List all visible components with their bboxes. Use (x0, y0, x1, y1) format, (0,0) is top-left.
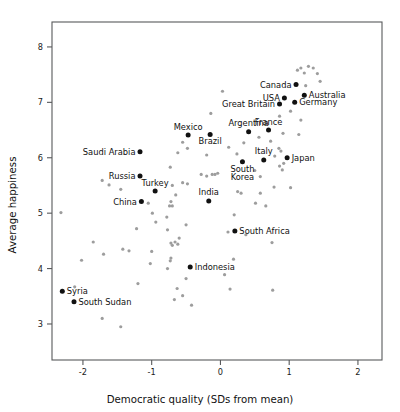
scatter-plot-figure: -2-1012 345678 CanadaAustraliaUSAGermany… (0, 0, 400, 412)
data-point (303, 71, 306, 74)
data-point (307, 65, 310, 68)
data-point (149, 262, 152, 265)
data-point-label: Japan (291, 153, 315, 163)
x-tick-label: -1 (148, 367, 156, 377)
data-point (259, 192, 262, 195)
data-point-label: Mexico (174, 122, 203, 132)
data-point (181, 294, 184, 297)
data-point (121, 248, 124, 251)
data-point-label: Turkey (141, 178, 169, 188)
data-point (101, 179, 104, 182)
y-axis-title: Average happiness (7, 157, 18, 254)
data-point (232, 258, 235, 261)
data-point (205, 153, 208, 156)
data-point-label: Canada (260, 80, 292, 90)
data-point-labeled (292, 100, 297, 105)
data-point (168, 204, 171, 207)
data-point (209, 112, 212, 115)
data-point (169, 259, 172, 262)
data-point (242, 141, 245, 144)
data-point-labeled (153, 189, 158, 194)
data-point-label: Great Britain (222, 99, 275, 109)
data-point (299, 66, 302, 69)
data-point (257, 136, 260, 139)
data-point (150, 250, 153, 253)
x-tick-label: 1 (287, 367, 292, 377)
data-point (282, 162, 285, 165)
data-point (59, 211, 62, 214)
data-point-label: South Sudan (79, 297, 132, 307)
data-point (184, 277, 187, 280)
data-point (166, 228, 169, 231)
data-point (226, 230, 229, 233)
data-point (254, 202, 257, 205)
data-point-labeled (139, 199, 144, 204)
data-point (135, 227, 138, 230)
y-tick-label: 7 (38, 97, 43, 107)
data-point-labeled (60, 289, 65, 294)
data-point (316, 72, 319, 75)
data-point (312, 66, 315, 69)
data-point (296, 69, 299, 72)
data-point (166, 267, 169, 270)
data-point (102, 253, 105, 256)
x-tick-label: 0 (218, 367, 223, 377)
data-point (269, 140, 272, 143)
data-point (186, 147, 189, 150)
data-point-label: Italy (255, 146, 273, 156)
data-point-labeled (294, 82, 299, 87)
data-point (119, 188, 122, 191)
data-point-labeled (246, 129, 251, 134)
data-point (270, 241, 273, 244)
data-point (259, 175, 262, 178)
data-point-labeled (206, 198, 211, 203)
data-point (107, 183, 110, 186)
data-point (147, 202, 150, 205)
data-point-label: Indonesia (195, 262, 235, 272)
data-point-labeled (282, 95, 287, 100)
data-point (304, 84, 307, 87)
y-tick-label: 3 (38, 319, 43, 329)
figure-background (0, 0, 400, 412)
data-point (289, 110, 292, 113)
data-point (169, 200, 172, 203)
data-point-label: Korea (231, 172, 255, 182)
data-point (221, 90, 224, 93)
data-point (186, 182, 189, 185)
data-point (169, 256, 172, 259)
data-point (136, 282, 139, 285)
data-point (239, 192, 242, 195)
data-point (181, 141, 184, 144)
data-point (278, 164, 281, 167)
x-axis-title: Democratic quality (SDs from mean) (107, 394, 294, 405)
data-point (228, 287, 231, 290)
data-point (279, 150, 282, 153)
data-point (176, 151, 179, 154)
plot-canvas: -2-1012 345678 CanadaAustraliaUSAGermany… (0, 0, 400, 412)
x-tick-label: 2 (355, 367, 360, 377)
data-point (127, 249, 130, 252)
data-point-label: Syria (67, 286, 88, 296)
data-point (319, 80, 322, 83)
data-point (200, 173, 203, 176)
data-point (281, 132, 284, 135)
data-point-labeled (261, 157, 266, 162)
y-tick-label: 8 (38, 42, 43, 52)
data-point (272, 186, 275, 189)
data-point (154, 220, 157, 223)
data-point-label: Brazil (199, 136, 222, 146)
data-point (264, 204, 267, 207)
data-point-labeled (232, 228, 237, 233)
data-point (299, 118, 302, 121)
data-point-label: India (199, 187, 219, 197)
data-point (213, 173, 216, 176)
data-point (151, 212, 154, 215)
data-point (178, 237, 181, 240)
data-point (190, 304, 193, 307)
data-point (273, 154, 276, 157)
data-point (181, 181, 184, 184)
data-point (281, 168, 284, 171)
data-point-labeled (285, 155, 290, 160)
data-point-label: South Africa (239, 226, 289, 236)
data-point (236, 190, 239, 193)
